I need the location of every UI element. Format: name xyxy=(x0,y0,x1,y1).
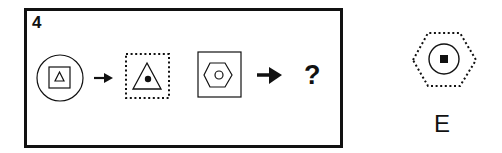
filled-square-innermost-icon xyxy=(440,55,448,63)
option-label[interactable]: E xyxy=(434,112,450,136)
figure-2 xyxy=(126,54,169,98)
option-e-figure[interactable] xyxy=(413,33,476,86)
figure-3 xyxy=(198,52,241,97)
figure-1 xyxy=(37,55,83,101)
filled-dot-icon xyxy=(145,76,151,82)
arrow-2-icon xyxy=(257,67,282,84)
square-inner-icon xyxy=(49,67,70,88)
hexagon-inner-icon xyxy=(204,63,232,87)
circle-innermost-icon xyxy=(215,71,223,79)
triangle-innermost-icon xyxy=(55,72,64,81)
circle-outer-icon xyxy=(37,55,83,101)
arrow-1-icon xyxy=(94,73,113,83)
question-mark: ? xyxy=(304,62,321,89)
figure-canvas xyxy=(0,0,502,153)
